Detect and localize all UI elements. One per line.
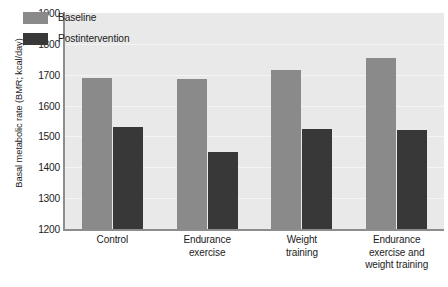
y-tick-label: 1400 [26, 162, 60, 173]
legend-label: Postintervention [58, 33, 129, 44]
legend-label: Baseline [58, 12, 96, 23]
legend-item: Postintervention [23, 28, 129, 49]
bar [271, 70, 301, 229]
y-tick-label: 1300 [26, 193, 60, 204]
y-tick-label: 1200 [26, 224, 60, 235]
bar [302, 129, 332, 229]
x-axis-category-labels: ControlEnduranceexerciseWeighttrainingEn… [65, 234, 444, 287]
bar [366, 58, 396, 229]
y-tick-label: 1700 [26, 69, 60, 80]
x-category-label: Control [65, 234, 160, 247]
bar [177, 79, 207, 229]
legend-item: Baseline [23, 7, 129, 28]
legend-swatch [23, 33, 48, 45]
legend-swatch [23, 12, 48, 24]
x-category-label: Weighttraining [255, 234, 350, 259]
x-category-label: Enduranceexercise andweight training [349, 234, 444, 272]
bar-group [366, 13, 427, 229]
x-category-label: Enduranceexercise [160, 234, 255, 259]
x-axis-line [63, 229, 444, 231]
bar [82, 78, 112, 229]
y-tick-label: 1600 [26, 100, 60, 111]
bar [397, 130, 427, 229]
bar-group [177, 13, 238, 229]
bar-chart: Basal metabolic rate (BMR; kcal/day) 190… [0, 0, 448, 287]
chart-legend: BaselinePostintervention [23, 7, 129, 49]
y-tick-label: 1500 [26, 131, 60, 142]
bar [208, 152, 238, 229]
bar-group [271, 13, 332, 229]
bar [113, 127, 143, 229]
